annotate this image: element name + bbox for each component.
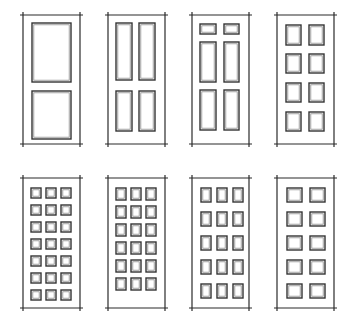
door-panel [31, 205, 41, 215]
door-panel [286, 25, 301, 45]
door-panel [139, 91, 155, 131]
door-panel [146, 188, 156, 200]
door-panel [31, 188, 41, 198]
door-panel [61, 222, 71, 232]
door-panel [287, 284, 302, 298]
door-panel [131, 260, 141, 272]
door-panel [131, 224, 141, 236]
door-panel [201, 284, 211, 298]
door-panel [131, 278, 141, 290]
door-panel [46, 256, 56, 266]
door-panel [287, 188, 302, 202]
fifteen-panel-door [189, 175, 252, 311]
door-panel [217, 284, 227, 298]
two-panel-door [20, 12, 83, 147]
door-panel [139, 23, 155, 80]
door-panel [309, 83, 324, 102]
door-panel [61, 188, 71, 198]
door-panel [146, 224, 156, 236]
eight-panel-door [274, 12, 337, 147]
door-panel [286, 83, 301, 102]
door-panel [286, 54, 301, 73]
door-panel [233, 236, 243, 250]
door-panel [61, 256, 71, 266]
door-panel [116, 278, 126, 290]
door-panel [61, 273, 71, 283]
door-panel [201, 260, 211, 274]
door-panel [31, 222, 41, 232]
door-panel [310, 212, 325, 226]
door-panel [310, 260, 325, 274]
door-panel [224, 24, 239, 34]
door-panel [309, 25, 324, 45]
door-panel [286, 112, 301, 131]
door-panel [146, 242, 156, 254]
door-panel [201, 188, 211, 202]
door-panel [217, 236, 227, 250]
door-panel [61, 290, 71, 300]
door-panel [116, 91, 132, 131]
door-panel [131, 206, 141, 218]
door-panel [309, 54, 324, 73]
door-panel [31, 239, 41, 249]
door-panel [116, 23, 132, 80]
door-panel [61, 239, 71, 249]
door-panel [46, 290, 56, 300]
door-panel [287, 260, 302, 274]
door-panel [310, 284, 325, 298]
door-panel [287, 212, 302, 226]
door-panel [46, 205, 56, 215]
door-panel [146, 278, 156, 290]
eighteen-panel-door [105, 175, 168, 311]
door-panel [224, 90, 239, 130]
door-panel [233, 260, 243, 274]
door-panel [116, 242, 126, 254]
door-panel [201, 236, 211, 250]
door-panel [46, 273, 56, 283]
door-panel [61, 205, 71, 215]
door-panel [116, 260, 126, 272]
door-panel [200, 24, 216, 34]
door-panel [32, 23, 71, 82]
door-panel [32, 91, 71, 139]
door-panel [310, 236, 325, 250]
twenty-one-panel-door [20, 175, 83, 311]
six-panel-door [189, 12, 252, 147]
door-panel [233, 284, 243, 298]
door-panel [201, 212, 211, 226]
door-panel [217, 212, 227, 226]
door-panel [31, 290, 41, 300]
door-panel [287, 236, 302, 250]
door-panel [146, 206, 156, 218]
door-panel [146, 260, 156, 272]
door-styles-figure [0, 0, 352, 324]
door-panel [116, 188, 126, 200]
door-panel [200, 42, 216, 82]
door-panel [131, 242, 141, 254]
door-panel [309, 112, 324, 131]
door-panel [217, 260, 227, 274]
door-panel [31, 273, 41, 283]
door-panel [46, 188, 56, 198]
door-panel [233, 188, 243, 202]
door-panel [116, 206, 126, 218]
four-panel-door [105, 12, 168, 147]
door-panel [233, 212, 243, 226]
door-panel [46, 239, 56, 249]
door-panel [224, 42, 239, 82]
door-panel [200, 90, 216, 130]
door-panel [31, 256, 41, 266]
door-panel [46, 222, 56, 232]
door-panel [310, 188, 325, 202]
ten-panel-door [274, 175, 337, 311]
door-panel [116, 224, 126, 236]
door-panel [217, 188, 227, 202]
door-panel [131, 188, 141, 200]
